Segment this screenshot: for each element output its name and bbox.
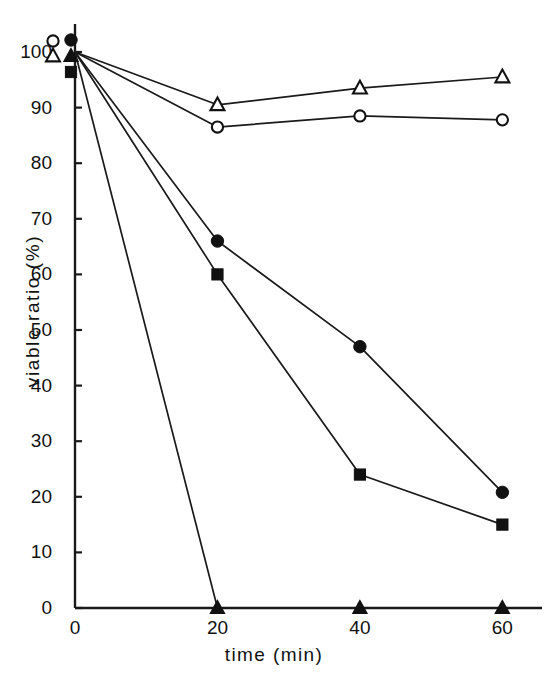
data-point-filled-circle <box>496 486 508 498</box>
data-point-open-circle <box>497 114 508 125</box>
data-point-filled-circle <box>354 340 366 352</box>
series-line-filled-square <box>75 52 502 525</box>
data-point-open-triangle <box>495 70 509 83</box>
figure: viable ratio (%) time (min) 010203040506… <box>0 0 548 679</box>
origin-key-marker-triangle-open <box>46 49 60 62</box>
chart-canvas <box>0 0 548 679</box>
data-point-open-circle <box>212 121 223 132</box>
data-point-filled-circle <box>211 235 223 247</box>
series-line-filled-triangle <box>75 52 502 608</box>
data-point-filled-square <box>212 269 223 280</box>
data-point-open-circle <box>354 110 365 121</box>
origin-key-marker-circle-filled <box>65 34 77 46</box>
origin-key-marker-square-filled <box>65 66 76 77</box>
series-line-open-triangle <box>75 52 502 105</box>
plot-area <box>0 0 548 679</box>
data-point-filled-square <box>354 469 365 480</box>
data-point-filled-square <box>497 519 508 530</box>
origin-key-marker-circle-open <box>47 35 58 46</box>
series-line-open-circle <box>75 52 502 127</box>
